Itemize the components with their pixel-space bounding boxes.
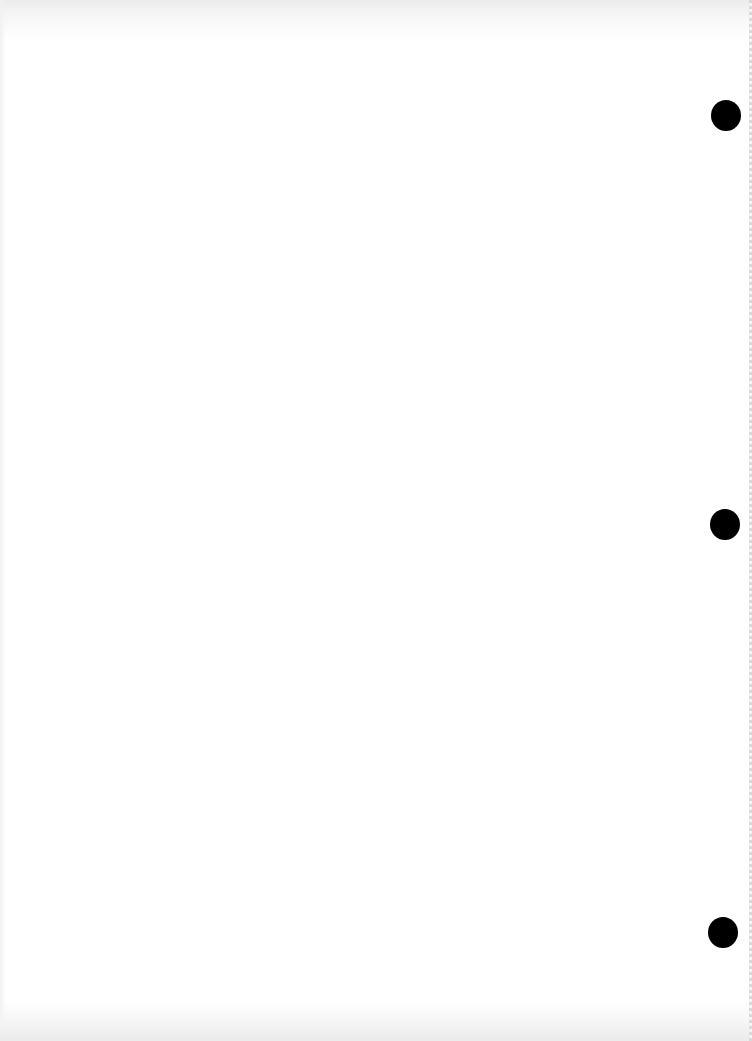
scan-top-shadow [0,0,752,40]
scanned-page [0,0,752,1041]
scan-bottom-shadow [0,1001,752,1041]
punch-hole-bottom [708,917,738,948]
punch-hole-top [711,100,741,131]
punch-hole-middle [710,509,740,540]
scan-left-shadow [0,0,6,1041]
